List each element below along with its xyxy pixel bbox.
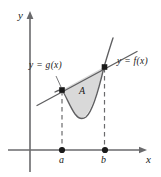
area-between-curves-figure: y x y = g(x) y = f(x) A a b (0, 0, 161, 177)
x-axis-point-b (102, 147, 108, 153)
intersection-marker-b (102, 64, 108, 70)
curve-g-label: y = g(x) (29, 61, 62, 71)
curve-f-label: y = f(x) (117, 57, 148, 67)
x-bound-b-label: b (101, 155, 106, 165)
leader-line-g-label (56, 76, 61, 87)
intersection-marker-a (59, 87, 65, 93)
x-axis-label: x (146, 154, 151, 165)
x-axis-point-a (59, 147, 65, 153)
x-bound-a-label: a (59, 155, 64, 165)
region-area-label: A (79, 86, 85, 96)
y-axis-label: y (18, 10, 23, 21)
y-axis-arrowhead (27, 11, 34, 19)
